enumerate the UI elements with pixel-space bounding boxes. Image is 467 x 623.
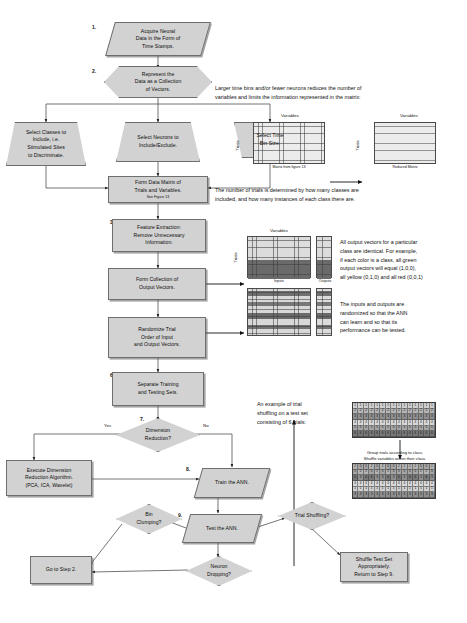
node-go-to-step-2[interactable]: Go to Step 2.	[30, 556, 92, 584]
node-label: Form Collection of Output Vectors.	[136, 276, 178, 291]
node-label: Trial Shuffling?	[295, 512, 330, 520]
input-matrix-randomized	[247, 288, 311, 336]
node-label: Bin Clumping?	[137, 511, 162, 526]
annotation-trial-shuffling-text: An example of trial shuffling on a test …	[257, 400, 308, 426]
step-number-1: 1.	[92, 24, 96, 30]
node-label: Train the ANN.	[215, 479, 249, 487]
node-label: Select Time Bin Size.	[256, 132, 283, 147]
node-label: Shuffle Test Set Appropriately. Return t…	[354, 556, 393, 579]
matrix-grid	[248, 289, 310, 335]
left-matrix-y-axis-label: Trials	[235, 140, 240, 151]
matrix-grid	[248, 237, 310, 277]
node-shuffle-test-set[interactable]: Shuffle Test Set Appropriately. Return t…	[340, 552, 408, 582]
inputs-matrix-x-axis-label: Variables	[248, 228, 310, 233]
node-label: Go to Step 2.	[46, 566, 77, 574]
node-select-classes[interactable]: Select Classes to Include, i.e. Stimulat…	[6, 122, 86, 166]
node-trial-shuffling-decision[interactable]: Trial Shuffling?	[278, 502, 346, 530]
node-label: Select Classes to Include, i.e. Stimulat…	[26, 129, 66, 160]
node-form-data-matrix[interactable]: Form Data Matrix of Trials and Variables…	[108, 176, 208, 203]
annotation-matrix-footer: The number of trials is determined by ho…	[215, 186, 359, 204]
grid-cell: 6	[430, 431, 435, 437]
outputs-caption: Outputs	[314, 279, 336, 284]
input-matrix-grouped	[247, 236, 311, 278]
node-label: Form Data Matrix of Trials and Variables…	[135, 179, 182, 200]
node-represent-data-as-vectors[interactable]: Represent the Data as a Collection of Ve…	[104, 66, 212, 98]
node-dimension-reduction-decision[interactable]: Dimension Reduction?	[116, 418, 200, 452]
reduced-matrix	[374, 122, 436, 164]
node-neuron-dropping-decision[interactable]: Neuron Dropping?	[186, 556, 252, 586]
left-matrix-caption: Matrix from figure 13	[253, 165, 325, 170]
output-vector-column-randomized	[316, 288, 332, 336]
node-bin-clumping-decision[interactable]: Bin Clumping?	[116, 504, 182, 534]
edge-label-no: No	[203, 423, 209, 428]
annotation-group-trials-text: Group trials according to class. Shuffle…	[335, 450, 455, 461]
grid-cell: 3	[430, 492, 435, 498]
node-label: Separate Training and Testing Sets.	[137, 381, 178, 396]
node-test-the-ann[interactable]: Test the ANN.	[186, 514, 258, 543]
annotation-output-vectors-text: All output vectors for a particular clas…	[340, 238, 423, 282]
node-label: Select Neurons to Include/Exclude.	[137, 134, 178, 149]
annotation-matrix-reduction-text: Larger time bins and/or fewer neurons re…	[215, 84, 362, 102]
matrix-grid	[375, 123, 435, 163]
step-number-8: 8.	[186, 466, 190, 472]
annotation-randomization-text: The inputs and outputs are randomized so…	[340, 300, 407, 335]
edge-label-yes: Yes	[104, 423, 111, 428]
node-execute-dimension-reduction[interactable]: Execute Dimension Reduction Algorithm. (…	[6, 460, 92, 496]
node-label: Randomize Trial Order of Input and Outpu…	[134, 326, 180, 349]
right-matrix-caption: Reduced Matrix	[374, 165, 436, 170]
node-feature-extraction[interactable]: Feature Extraction: Remove Unnecessary I…	[112, 219, 206, 252]
step-number-2: 2.	[92, 68, 96, 74]
node-form-output-vectors[interactable]: Form Collection of Output Vectors.	[108, 268, 206, 300]
right-matrix-y-axis-label: Trials	[355, 140, 360, 151]
output-vector-column-grouped	[316, 236, 332, 278]
node-label: Test the ANN.	[206, 525, 238, 533]
node-randomize-trial-order[interactable]: Randomize Trial Order of Input and Outpu…	[108, 317, 206, 358]
matrix-grid	[317, 289, 331, 335]
shuffle-grid-before: 1111111111111112222222222222223333333333…	[352, 402, 436, 438]
node-acquire-neural-data[interactable]: Acquire Neural Data in the Form of Time …	[110, 22, 206, 56]
matrix-grid	[317, 237, 331, 277]
node-label: Neuron Dropping?	[207, 563, 231, 578]
node-train-the-ann[interactable]: Train the ANN.	[198, 468, 266, 498]
node-label: Dimension Reduction?	[145, 427, 171, 442]
inputs-caption: Inputs	[247, 279, 311, 284]
right-matrix-x-axis-label: Variables	[374, 113, 444, 118]
node-select-neurons[interactable]: Select Neurons to Include/Exclude.	[116, 122, 200, 162]
node-label: Execute Dimension Reduction Algorithm. (…	[25, 467, 73, 490]
flowchart-canvas: 1. 2. 3. 4. 5. 6. 7. 8. 9. Acquire Neura…	[0, 0, 467, 623]
left-matrix-x-axis-label: Variables	[255, 113, 325, 118]
node-label: Represent the Data as a Collection of Ve…	[135, 71, 182, 94]
shuffle-grid-after: 2552525522225525225252555552256366336363…	[352, 463, 436, 499]
inputs-matrix-y-axis-label: Trials	[233, 252, 238, 263]
node-label: Acquire Neural Data in the Form of Time …	[136, 28, 181, 51]
node-separate-training-testing[interactable]: Separate Training and Testing Sets.	[112, 372, 204, 406]
node-label: Feature Extraction: Remove Unnecessary I…	[133, 224, 184, 247]
